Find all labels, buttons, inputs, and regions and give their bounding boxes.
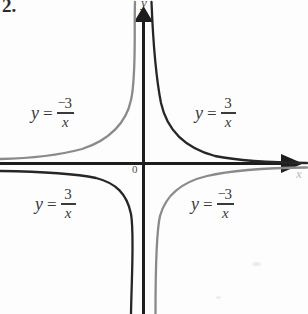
equation-label-quadrant-4: y = –3 x <box>191 188 234 222</box>
equals-sign: = <box>42 104 54 124</box>
curve-branch-q2 <box>0 2 135 159</box>
numerator-value: 3 <box>225 186 233 202</box>
y-axis-label: y <box>141 0 147 11</box>
page-title: 2. <box>2 0 16 17</box>
equation-variable: y <box>191 194 199 215</box>
x-axis-label: x <box>296 166 302 182</box>
equation-variable: y <box>195 103 203 124</box>
fraction: –3 x <box>57 96 75 130</box>
negative-sign: – <box>59 93 65 108</box>
scan-artifact <box>216 296 221 299</box>
numerator-value: 3 <box>65 95 73 111</box>
fraction-denominator: x <box>223 114 234 130</box>
fraction: 3 x <box>61 187 76 221</box>
equation-variable: y <box>35 194 43 215</box>
y-axis <box>134 6 153 314</box>
equation-variable: y <box>31 103 39 124</box>
hyperbola-graph <box>0 0 308 314</box>
curve-branch-q1 <box>152 2 308 163</box>
fraction-denominator: x <box>60 114 71 130</box>
fraction: –3 x <box>217 187 235 221</box>
fraction-numerator: –3 <box>217 187 235 203</box>
negative-sign: – <box>219 184 225 199</box>
fraction: 3 x <box>221 96 236 130</box>
equation-label-quadrant-1: y = 3 x <box>195 97 236 131</box>
fraction-denominator: x <box>63 205 74 221</box>
equation-label-quadrant-3: y = 3 x <box>35 188 76 222</box>
numerator-value: 3 <box>224 95 232 111</box>
fraction-numerator: –3 <box>57 96 75 112</box>
numerator-value: 3 <box>64 186 72 202</box>
origin-label: 0 <box>132 163 138 175</box>
figure-container: 2. y x 0 y = –3 x y = 3 x y = 3 x y = <box>0 0 308 314</box>
fraction-numerator: 3 <box>222 96 234 112</box>
equals-sign: = <box>46 195 58 215</box>
scan-artifact <box>252 262 261 266</box>
equals-sign: = <box>206 104 218 124</box>
equals-sign: = <box>202 195 214 215</box>
equation-label-quadrant-2: y = –3 x <box>31 97 74 131</box>
fraction-numerator: 3 <box>62 187 74 203</box>
fraction-denominator: x <box>220 205 231 221</box>
